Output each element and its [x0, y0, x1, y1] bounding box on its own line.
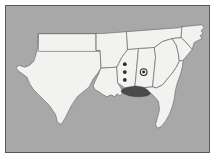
figure-root — [0, 0, 215, 159]
map-point-p4-center — [142, 71, 145, 74]
map-point-p1 — [123, 62, 127, 66]
map-svg — [6, 6, 209, 152]
state-alabama — [135, 47, 156, 87]
map-point-p2 — [123, 70, 127, 74]
map-frame — [5, 5, 210, 153]
map-point-p3 — [123, 78, 127, 82]
